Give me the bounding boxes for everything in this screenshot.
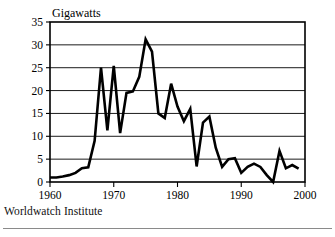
y-axis-tick-label: 35 (32, 16, 44, 28)
x-axis-tick-label: 1970 (102, 189, 125, 200)
x-axis-tick-label: 1960 (39, 189, 62, 200)
y-axis-tick-label: 20 (32, 85, 44, 97)
chart-figure: Gigawatts 05101520253035 196019701980199… (0, 0, 335, 237)
x-axis-tick-label: 1990 (230, 189, 253, 200)
y-axis-unit-label: Gigawatts (52, 6, 101, 20)
y-axis-tick-label: 15 (32, 107, 44, 119)
line-chart-svg: Gigawatts 05101520253035 196019701980199… (0, 0, 335, 200)
tick-marks-group (46, 22, 305, 187)
chart-plot-area: Gigawatts 05101520253035 196019701980199… (0, 0, 335, 200)
x-axis-tick-labels: 19601970198019902000 (39, 189, 317, 200)
data-series-line (50, 39, 299, 182)
y-axis-tick-labels: 05101520253035 (32, 16, 44, 188)
y-axis-tick-label: 5 (37, 153, 43, 165)
source-attribution: Worldwatch Institute (4, 205, 102, 217)
y-axis-tick-label: 25 (32, 62, 44, 74)
x-axis-tick-label: 2000 (294, 189, 317, 200)
bottom-divider (3, 228, 332, 229)
x-axis-tick-label: 1980 (166, 189, 189, 200)
y-axis-tick-label: 30 (32, 39, 44, 51)
y-axis-tick-label: 0 (37, 176, 43, 188)
y-axis-tick-label: 10 (32, 130, 44, 142)
